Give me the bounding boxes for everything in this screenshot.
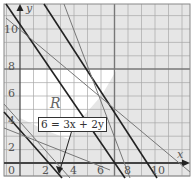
- svg-text:0: 0: [8, 164, 15, 177]
- svg-text:2: 2: [8, 141, 15, 154]
- svg-text:6: 6: [97, 164, 104, 177]
- svg-text:8: 8: [8, 60, 15, 73]
- svg-text:10: 10: [151, 164, 165, 177]
- svg-text:4: 4: [70, 164, 77, 177]
- equation-label: 6 = 3x + 2y: [38, 117, 107, 132]
- y-axis-label: y: [25, 2, 33, 15]
- svg-text:10: 10: [4, 23, 18, 36]
- x-axis-label: x: [177, 148, 184, 161]
- region-label: R: [50, 95, 61, 111]
- graph: 0 2 4 6 8 10 2 4 6 8 10 y x: [0, 0, 195, 180]
- svg-text:8: 8: [124, 164, 131, 177]
- svg-text:2: 2: [42, 164, 49, 177]
- svg-text:4: 4: [8, 114, 15, 127]
- svg-text:6: 6: [8, 87, 15, 100]
